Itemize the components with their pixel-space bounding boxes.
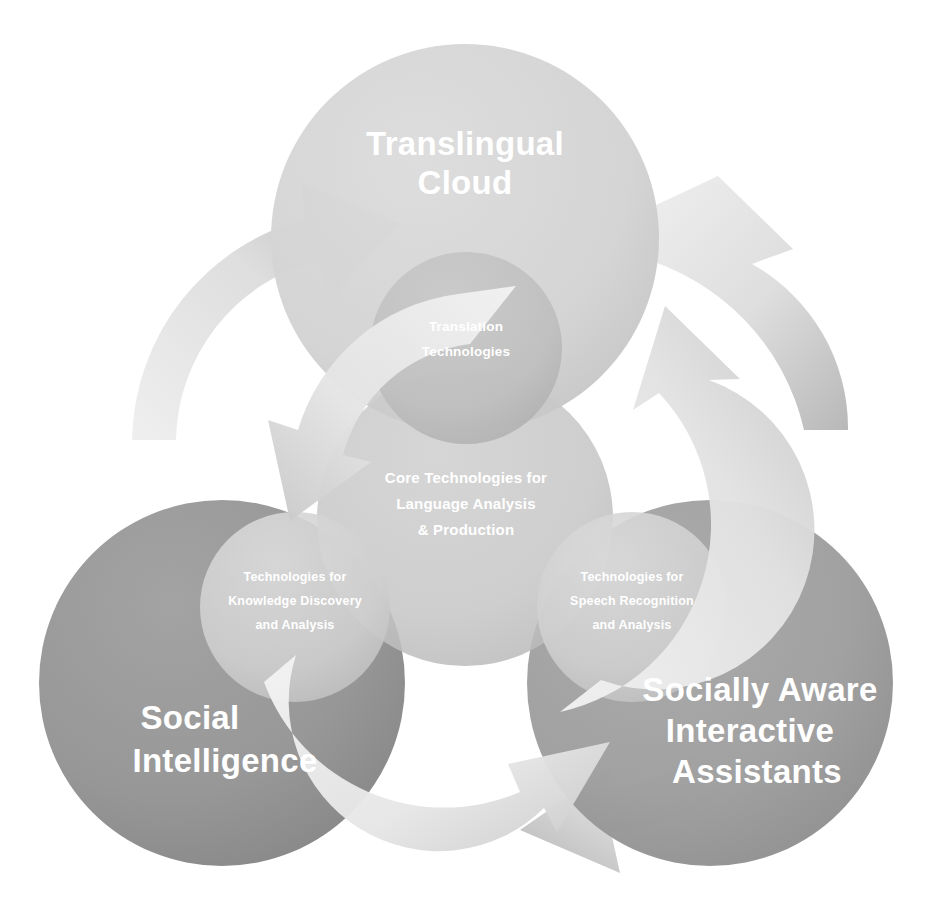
socially-aware-assistants-label-line1: Socially Aware: [642, 671, 877, 708]
translingual-cloud-label-line2: Cloud: [418, 164, 513, 201]
core-technologies-label-line2: Language Analysis: [396, 495, 536, 512]
speech-recognition-label-line1: Technologies for: [581, 570, 684, 584]
social-intelligence-label-line1: Social: [140, 699, 239, 736]
translation-technologies-label-line1: Translation: [429, 319, 503, 334]
speech-recognition-label-line2: Speech Recognition: [570, 594, 694, 608]
speech-recognition-label-line3: and Analysis: [592, 618, 671, 632]
translingual-cloud-label-line1: Translingual: [366, 125, 564, 162]
knowledge-discovery-label-line1: Technologies for: [244, 570, 347, 584]
socially-aware-assistants-label-line2: Interactive: [666, 712, 834, 749]
social-intelligence-label-line2: Intelligence: [132, 742, 317, 779]
diagram-canvas: Translingual Cloud Social Intelligence S…: [0, 0, 931, 899]
knowledge-discovery-label-line3: and Analysis: [255, 618, 334, 632]
core-technologies-label-line3: & Production: [418, 521, 515, 538]
core-technologies-label-line1: Core Technologies for: [385, 469, 547, 486]
translation-technologies-label-line2: Technologies: [422, 344, 510, 359]
socially-aware-assistants-label-line3: Assistants: [672, 753, 842, 790]
diagram-svg: Translingual Cloud Social Intelligence S…: [0, 0, 931, 899]
knowledge-discovery-label-line2: Knowledge Discovery: [228, 594, 362, 608]
